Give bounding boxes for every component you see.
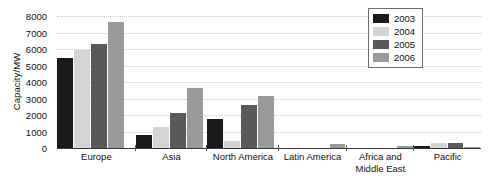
y-axis-tick-label: 8000 — [26, 11, 47, 22]
legend-label: 2006 — [394, 53, 415, 63]
legend-item: 2003 — [373, 12, 415, 25]
bar — [464, 147, 480, 149]
y-axis-tick-label: 2000 — [26, 110, 47, 121]
x-axis-category-label: Asia — [136, 151, 207, 174]
bar — [187, 88, 203, 148]
x-axis-category-labels: EuropeAsiaNorth AmericaLatin AmericaAfri… — [57, 151, 481, 174]
bar — [397, 146, 413, 148]
bar — [330, 144, 346, 148]
bar — [136, 135, 152, 148]
bar-group — [136, 16, 207, 148]
bar — [241, 105, 257, 148]
bar — [153, 127, 169, 148]
legend-label: 2005 — [394, 40, 415, 50]
y-axis-tick-label: 1000 — [26, 126, 47, 137]
legend-swatch-icon — [373, 40, 389, 49]
legend-swatch-icon — [373, 14, 389, 23]
y-axis-tick-label: 6000 — [26, 44, 47, 55]
legend-swatch-icon — [373, 53, 389, 62]
axis-baseline — [57, 148, 481, 149]
bar — [74, 50, 90, 148]
y-axis-tick-labels: 800070006000500040003000200010000 — [0, 16, 52, 148]
bar-chart: Capacity/MW 8000700060005000400030002000… — [0, 0, 489, 191]
bar-group — [57, 16, 136, 148]
x-axis-category-label: Pacific — [414, 151, 481, 174]
legend-swatch-icon — [373, 27, 389, 36]
bar-group — [414, 16, 481, 148]
y-axis-tick-label: 3000 — [26, 93, 47, 104]
bar — [414, 146, 430, 148]
legend-item: 2005 — [373, 38, 415, 51]
bar — [448, 143, 464, 148]
x-axis-category-label: Africa and Middle East — [347, 151, 415, 174]
bar-group — [279, 16, 347, 148]
bar — [57, 58, 73, 148]
legend: 2003200420052006 — [368, 8, 423, 68]
x-axis-category-label: Latin America — [279, 151, 347, 174]
bar — [207, 119, 223, 148]
bar — [258, 96, 274, 148]
legend-label: 2004 — [394, 27, 415, 37]
bar — [108, 22, 124, 148]
y-axis-tick-label: 4000 — [26, 77, 47, 88]
bar-group — [207, 16, 278, 148]
x-axis-category-label: North America — [207, 151, 278, 174]
bar — [431, 143, 447, 148]
y-axis-tick-label: 7000 — [26, 27, 47, 38]
x-axis-category-label: Europe — [57, 151, 136, 174]
bar — [91, 44, 107, 148]
legend-label: 2003 — [394, 14, 415, 24]
bar — [170, 113, 186, 148]
y-axis-tick-label: 5000 — [26, 60, 47, 71]
y-axis-tick-label: 0 — [42, 143, 47, 154]
legend-item: 2006 — [373, 51, 415, 64]
legend-item: 2004 — [373, 25, 415, 38]
bar — [224, 141, 240, 148]
